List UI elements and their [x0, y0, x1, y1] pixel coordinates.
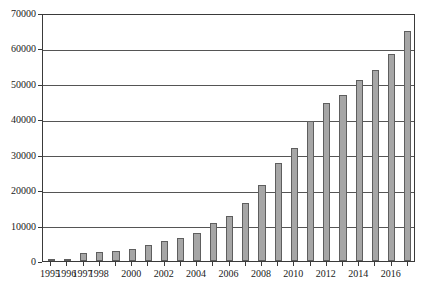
bar — [129, 249, 136, 261]
bar — [291, 148, 298, 261]
x-axis-tick-mark — [212, 262, 213, 266]
bar — [339, 95, 346, 262]
x-axis-tick-mark — [196, 262, 197, 266]
y-axis-tick-label: 60000 — [0, 44, 36, 54]
bar — [388, 54, 395, 261]
bar — [177, 238, 184, 261]
x-axis-tick-label: 2014 — [348, 268, 368, 279]
x-axis-tick-mark — [342, 262, 343, 266]
x-axis-tick-label: 2004 — [186, 268, 206, 279]
bar — [96, 252, 103, 261]
x-axis-tick-label: 1998 — [89, 268, 109, 279]
x-axis-tick-mark — [391, 262, 392, 266]
bar — [372, 70, 379, 261]
x-axis-tick-mark — [245, 262, 246, 266]
plot-area — [42, 14, 415, 262]
x-axis-tick-mark — [326, 262, 327, 266]
x-axis-tick-mark — [66, 262, 67, 266]
bar — [275, 163, 282, 261]
x-axis-tick-mark — [180, 262, 181, 266]
y-axis-tick-label: 40000 — [0, 115, 36, 125]
bar — [48, 259, 55, 261]
x-axis-tick-mark — [229, 262, 230, 266]
bar — [64, 259, 71, 261]
x-axis-tick-label: 2008 — [251, 268, 271, 279]
y-axis-tick-label: 70000 — [0, 9, 36, 19]
bar — [161, 241, 168, 261]
bar — [323, 103, 330, 261]
y-axis-tick-label: 0 — [0, 257, 36, 267]
x-axis-tick-mark — [83, 262, 84, 266]
y-axis-tick-label: 10000 — [0, 222, 36, 232]
x-axis-tick-mark — [261, 262, 262, 266]
bar — [226, 216, 233, 261]
bar — [356, 80, 363, 261]
x-axis-tick-mark — [164, 262, 165, 266]
x-axis-tick-mark — [99, 262, 100, 266]
x-axis-tick-label: 2016 — [381, 268, 401, 279]
x-axis-tick-label: 2000 — [121, 268, 141, 279]
bar — [112, 251, 119, 261]
x-axis-tick-label: 2012 — [316, 268, 336, 279]
bar — [242, 203, 249, 261]
bar — [307, 121, 314, 261]
x-axis-tick-mark — [131, 262, 132, 266]
x-axis-tick-mark — [147, 262, 148, 266]
y-axis-tick-label: 30000 — [0, 151, 36, 161]
x-axis-tick-label: 2010 — [283, 268, 303, 279]
bar — [404, 31, 411, 261]
x-axis-tick-mark — [374, 262, 375, 266]
y-axis-tick-label: 50000 — [0, 80, 36, 90]
y-axis-tick-label: 20000 — [0, 186, 36, 196]
x-axis-tick-mark — [310, 262, 311, 266]
y-axis-tick-mark — [38, 262, 42, 263]
bar — [145, 245, 152, 261]
bar — [80, 253, 87, 262]
x-axis-tick-mark — [293, 262, 294, 266]
x-axis-tick-mark — [358, 262, 359, 266]
bar — [258, 185, 265, 261]
bars-layer — [43, 15, 414, 261]
x-axis-tick-mark — [407, 262, 408, 266]
bar — [193, 233, 200, 261]
bar-chart: 010000200003000040000500006000070000 199… — [0, 0, 430, 293]
x-axis-tick-mark — [115, 262, 116, 266]
x-axis-tick-mark — [277, 262, 278, 266]
x-axis-tick-mark — [50, 262, 51, 266]
x-axis-tick-label: 2006 — [219, 268, 239, 279]
bar — [210, 223, 217, 261]
x-axis-tick-label: 2002 — [154, 268, 174, 279]
